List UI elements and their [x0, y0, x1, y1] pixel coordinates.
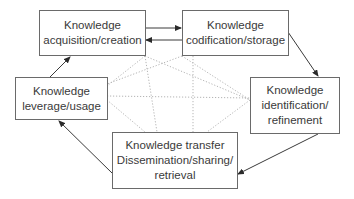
- node-knowledge-identification: Knowledge identification/ refinement: [250, 77, 340, 134]
- node-label-line: leverage/usage: [22, 99, 101, 114]
- dotted-edge-codification-identification: [182, 56, 250, 100]
- node-knowledge-acquisition: Knowledge acquisition/creation: [39, 10, 146, 56]
- node-label-line: Knowledge: [207, 18, 264, 33]
- node-knowledge-transfer: Knowledge transfer Dissemination/sharing…: [112, 132, 238, 189]
- node-label-line: Knowledge transfer: [125, 138, 224, 153]
- arrow-leverage-to-acquisition: [50, 57, 70, 77]
- node-label-line: Knowledge: [267, 83, 324, 98]
- node-label-line: refinement: [268, 113, 322, 128]
- arrow-codification-to-identification: [288, 32, 318, 76]
- dotted-edge-codification-leverage: [107, 56, 182, 84]
- node-label-line: acquisition/creation: [43, 33, 141, 48]
- node-label-line: Knowledge: [33, 84, 90, 99]
- arrow-transfer-to-leverage: [59, 121, 112, 173]
- arrow-identification-to-transfer: [238, 134, 318, 174]
- dotted-edge-leverage-transfer: [107, 100, 145, 132]
- knowledge-cycle-diagram: Knowledge acquisition/creation Knowledge…: [0, 0, 354, 199]
- dotted-edge-leverage-identification: [107, 96, 250, 98]
- dotted-edge-acquisition-leverage: [107, 56, 145, 86]
- node-label-line: identification/: [261, 98, 328, 113]
- node-knowledge-codification: Knowledge codification/storage: [182, 10, 289, 56]
- node-label-line: retrieval: [155, 168, 196, 183]
- node-label-line: Knowledge: [64, 18, 121, 33]
- dotted-connections: [107, 56, 250, 132]
- node-label-line: Dissemination/sharing/: [117, 153, 233, 168]
- dotted-edge-identification-transfer: [207, 100, 250, 132]
- node-knowledge-leverage: Knowledge leverage/usage: [15, 77, 108, 120]
- node-label-line: codification/storage: [186, 33, 285, 48]
- dotted-edge-acquisition-identification: [145, 56, 250, 100]
